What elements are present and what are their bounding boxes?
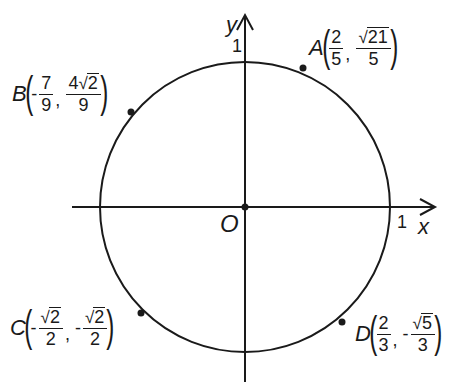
x-tick-label: 1: [397, 212, 407, 233]
left-paren: (: [322, 24, 330, 68]
point-c-x: √2 2: [39, 307, 63, 349]
point-a-label: A ( 2 5 , √21 5 ): [309, 26, 396, 70]
point-a-y: √21 5: [356, 27, 390, 69]
left-paren: (: [24, 304, 32, 348]
right-paren: ): [434, 310, 442, 354]
point-b-x: 7 9: [39, 74, 53, 115]
left-paren: (: [369, 310, 377, 354]
point-c-label: C ( - √2 2 , - √2 2 ): [10, 306, 113, 350]
origin-point: [242, 204, 249, 211]
point-b-y: 4√2 9: [66, 73, 100, 115]
right-paren: ): [100, 70, 108, 114]
right-paren: ): [390, 24, 398, 68]
point-d-label: D ( 2 3 , - √5 3 ): [355, 312, 441, 356]
y-axis-label: y: [226, 12, 237, 38]
point-d-y: √5 3: [411, 313, 435, 355]
point-c-marker: [138, 310, 145, 317]
point-c-y: √2 2: [83, 307, 107, 349]
y-tick-label: 1: [232, 36, 242, 57]
point-d-x: 2 3: [377, 314, 391, 355]
left-paren: (: [25, 70, 33, 114]
origin-label: O: [220, 210, 239, 238]
point-a-x: 2 5: [329, 28, 343, 69]
right-paren: ): [107, 304, 115, 348]
x-axis-label: x: [418, 214, 429, 240]
point-b-label: B ( - 7 9 , 4√2 9 ): [12, 72, 106, 116]
point-b-marker: [128, 109, 135, 116]
point-d-marker: [339, 319, 346, 326]
point-a-marker: [300, 65, 307, 72]
